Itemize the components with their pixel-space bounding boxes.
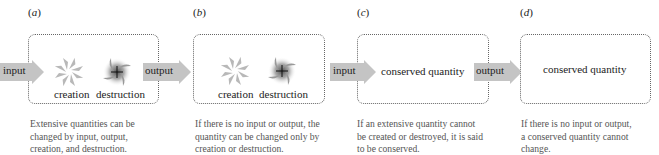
- conserved-quantity-label: conserved quantity: [381, 65, 464, 77]
- caption-line: changed by input, output,: [30, 131, 190, 144]
- conserved-quantity-label: conserved quantity: [543, 63, 626, 75]
- output-label: output: [476, 64, 504, 76]
- caption-line: be created or destroyed, it is said: [357, 131, 517, 144]
- input-label: input: [333, 64, 356, 76]
- destruction-label: destruction: [259, 88, 308, 100]
- output-arrow: output: [474, 60, 522, 84]
- vortex-sink-icon: [100, 55, 134, 89]
- output-arrow: output: [143, 60, 191, 84]
- caption-line: a conserved quantity cannot: [521, 131, 659, 144]
- caption-d: If there is no input or output, a conser…: [521, 118, 659, 155]
- caption-line: Extensive quantities can be: [30, 118, 190, 131]
- caption-line: creation, and destruction.: [30, 143, 190, 155]
- caption-line: If there is no input or output,: [521, 118, 659, 131]
- pinwheel-icon: [218, 54, 252, 88]
- destruction-label: destruction: [96, 88, 145, 100]
- caption-line: If an extensive quantity cannot: [357, 118, 517, 131]
- input-arrow: input: [0, 60, 44, 84]
- caption-a: Extensive quantities can be changed by i…: [30, 118, 190, 155]
- caption-line: If there is no input or output, the: [195, 118, 355, 131]
- vortex-sink-icon: [265, 54, 299, 88]
- caption-line: creation or destruction.: [195, 143, 355, 155]
- creation-label: creation: [54, 88, 89, 100]
- caption-b: If there is no input or output, the quan…: [195, 118, 355, 155]
- caption-line: change.: [521, 143, 659, 155]
- panel-label-a: (a): [28, 6, 41, 18]
- panel-label-c: (c): [357, 6, 369, 18]
- caption-line: quantity can be changed only by: [195, 131, 355, 144]
- panel-label-b: (b): [193, 6, 206, 18]
- caption-line: to be conserved.: [357, 143, 517, 155]
- output-label: output: [145, 64, 173, 76]
- panel-label-d: (d): [520, 6, 533, 18]
- caption-c: If an extensive quantity cannot be creat…: [357, 118, 517, 155]
- pinwheel-icon: [52, 55, 86, 89]
- input-arrow: input: [330, 60, 376, 84]
- creation-label: creation: [218, 88, 253, 100]
- input-label: input: [3, 64, 26, 76]
